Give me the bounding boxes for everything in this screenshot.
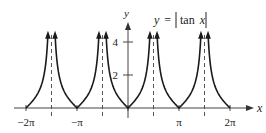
title-var: x: [199, 13, 206, 27]
title-eq: =: [164, 13, 171, 27]
curve-arrow-icon: [205, 31, 211, 39]
x-tick-label: 2π: [224, 116, 236, 128]
curve-branch: [208, 34, 230, 108]
title-lhs: y: [153, 13, 160, 27]
curve-branch: [55, 34, 99, 108]
y-tick-label: 4: [113, 36, 119, 48]
y-axis-label: y: [123, 7, 129, 19]
curve-branch: [157, 34, 201, 108]
y-axis-arrow-icon: [125, 22, 131, 30]
x-axis-arrow-icon: [246, 105, 254, 111]
curve-arrow-icon: [96, 31, 102, 39]
curve-arrow-icon: [147, 31, 153, 39]
chart-title: y = tan x: [153, 12, 206, 28]
axes: [14, 22, 254, 118]
chart: −2π−ππ2π 24 x y y = tan x: [0, 0, 266, 133]
curve-arrow-icon: [154, 31, 160, 39]
x-tick-label: −π: [71, 116, 83, 128]
curve-arrow-icon: [52, 31, 58, 39]
x-tick-label: π: [176, 116, 182, 128]
curve-arrow-icon: [103, 31, 109, 39]
svg-text:y =: y =: [153, 13, 171, 27]
x-tick-label: −2π: [17, 116, 35, 128]
svg-text:tan x: tan x: [180, 13, 206, 27]
curve-arrow-icon: [45, 31, 51, 39]
curve-branch: [26, 34, 48, 108]
curve-arrow-icon: [198, 31, 204, 39]
x-axis-label: x: [256, 101, 263, 115]
y-ticks: 24: [113, 36, 134, 81]
title-fn: tan: [180, 13, 195, 27]
y-tick-label: 2: [113, 69, 119, 81]
